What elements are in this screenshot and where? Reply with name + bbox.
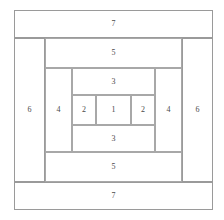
- strip-2-left-label: 2: [82, 106, 86, 114]
- strip-7-bottom-label: 7: [111, 192, 115, 200]
- strip-5-bottom: 5: [45, 152, 182, 182]
- strip-4-right: 4: [155, 68, 182, 152]
- strip-4-left-label: 4: [56, 106, 60, 114]
- strip-4-left: 4: [45, 68, 72, 152]
- strip-7-top-label: 7: [111, 20, 115, 28]
- strip-5-top: 5: [45, 38, 182, 68]
- strip-5-bottom-label: 5: [111, 163, 115, 171]
- strip-6-left: 6: [14, 38, 45, 182]
- center-square-1-label: 1: [111, 106, 115, 114]
- strip-2-right: 2: [131, 95, 155, 125]
- strip-3-top-label: 3: [111, 77, 115, 85]
- strip-7-top: 7: [14, 10, 213, 38]
- strip-3-bottom-label: 3: [111, 134, 115, 142]
- strip-6-right: 6: [182, 38, 213, 182]
- strip-3-top: 3: [72, 68, 155, 95]
- strip-4-right-label: 4: [166, 106, 170, 114]
- strip-6-left-label: 6: [27, 106, 31, 114]
- strip-7-bottom: 7: [14, 182, 213, 210]
- center-square-1: 1: [96, 95, 131, 125]
- strip-6-right-label: 6: [195, 106, 199, 114]
- strip-3-bottom: 3: [72, 125, 155, 152]
- strip-2-left: 2: [72, 95, 96, 125]
- strip-5-top-label: 5: [111, 49, 115, 57]
- strip-2-right-label: 2: [141, 106, 145, 114]
- log-cabin-block-diagram: 7 6 6 7 5 5 4 4 3 3 2 1 2: [0, 0, 224, 220]
